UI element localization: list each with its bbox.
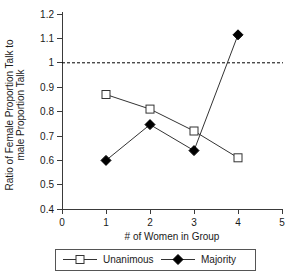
y-tick-label-1: 1	[48, 57, 54, 68]
chart-figure: Ratio of Female Proportion Talk to male …	[0, 0, 287, 275]
y-tick-label-1.1: 1.1	[40, 33, 54, 44]
y-tick-label-1.2: 1.2	[40, 9, 54, 20]
y-axis-title-line2: male Proportion Talk	[15, 69, 26, 161]
legend-marker-unanimous-open-square-icon	[76, 256, 84, 264]
x-tick-label-3: 3	[191, 217, 197, 228]
x-tick-label-2: 2	[147, 217, 153, 228]
data-point-unanimous-3	[190, 127, 198, 135]
y-tick-label-0.8: 0.8	[40, 106, 54, 117]
x-tick-label-0: 0	[59, 217, 65, 228]
y-tick-label-0.6: 0.6	[40, 155, 54, 166]
legend-label-unanimous: Unanimous	[103, 254, 154, 265]
y-tick-label-0.9: 0.9	[40, 82, 54, 93]
data-point-unanimous-4	[234, 154, 242, 162]
x-tick-label-5: 5	[279, 217, 285, 228]
data-point-unanimous-2	[146, 105, 154, 113]
ratio-of-talk-line-chart: Ratio of Female Proportion Talk to male …	[0, 0, 287, 275]
x-axis-title: # of Women in Group	[125, 231, 220, 242]
legend-item-unanimous[interactable]: Unanimous	[63, 254, 154, 265]
data-point-unanimous-1	[102, 91, 110, 99]
y-axis-title-line1: Ratio of Female Proportion Talk to	[4, 39, 15, 190]
x-tick-label-4: 4	[235, 217, 241, 228]
x-tick-label-1: 1	[103, 217, 109, 228]
y-tick-label-0.7: 0.7	[40, 131, 54, 142]
legend-label-majority: Majority	[201, 254, 236, 265]
y-tick-label-0.5: 0.5	[40, 179, 54, 190]
y-tick-label-0.4: 0.4	[40, 204, 54, 215]
